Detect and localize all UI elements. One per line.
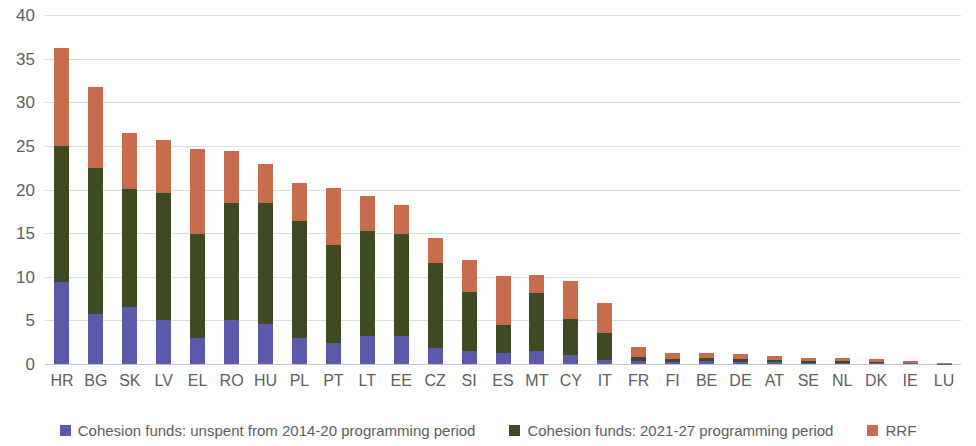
y-axis-tick-label: 25 bbox=[16, 137, 35, 154]
bar-segment-PT-s1 bbox=[326, 245, 341, 343]
x-axis-label-IE: IE bbox=[903, 372, 918, 390]
x-axis-label-SI: SI bbox=[462, 372, 477, 390]
bar-LT[interactable] bbox=[360, 196, 375, 364]
x-axis-label-NL: NL bbox=[832, 372, 852, 390]
y-axis: 0510152025303540 bbox=[0, 0, 45, 379]
legend-swatch-icon-1 bbox=[509, 425, 520, 436]
bar-segment-SI-s0 bbox=[462, 351, 477, 364]
x-axis-label-HR: HR bbox=[50, 372, 73, 390]
x-axis-label-BE: BE bbox=[696, 372, 717, 390]
bar-segment-SK-s1 bbox=[122, 189, 137, 308]
bar-segment-EL-s0 bbox=[190, 338, 205, 364]
bar-segment-IT-s0 bbox=[597, 360, 612, 364]
x-axis-label-EL: EL bbox=[188, 372, 208, 390]
bar-segment-ES-s2 bbox=[496, 276, 511, 325]
y-axis-tick-label: 0 bbox=[26, 356, 35, 373]
legend-item-0[interactable]: Cohesion funds: unspent from 2014-20 pro… bbox=[60, 422, 476, 439]
bar-segment-MT-s2 bbox=[529, 275, 544, 293]
bar-segment-ES-s0 bbox=[496, 353, 511, 364]
bar-SK[interactable] bbox=[122, 133, 137, 364]
bar-segment-EE-s1 bbox=[394, 234, 409, 336]
legend-item-1[interactable]: Cohesion funds: 2021-27 programming peri… bbox=[509, 422, 833, 439]
y-axis-tick-label: 40 bbox=[16, 7, 35, 24]
bar-segment-HR-s2 bbox=[54, 48, 69, 146]
x-axis-label-PT: PT bbox=[323, 372, 343, 390]
bar-segment-FR-s2 bbox=[631, 347, 646, 357]
bar-segment-DE-s0 bbox=[733, 362, 748, 364]
bar-segment-CY-s1 bbox=[563, 319, 578, 356]
bar-LV[interactable] bbox=[156, 140, 171, 364]
legend-swatch-icon-0 bbox=[60, 425, 71, 436]
bar-segment-EL-s2 bbox=[190, 149, 205, 235]
chart-legend: Cohesion funds: unspent from 2014-20 pro… bbox=[0, 414, 976, 446]
bars-layer bbox=[45, 15, 961, 364]
bar-segment-CZ-s2 bbox=[428, 238, 443, 263]
x-axis-label-RO: RO bbox=[220, 372, 244, 390]
legend-label-2: RRF bbox=[885, 422, 916, 439]
x-axis-label-LT: LT bbox=[359, 372, 376, 390]
bar-segment-PT-s0 bbox=[326, 343, 341, 364]
bar-segment-LV-s1 bbox=[156, 193, 171, 320]
bar-FR[interactable] bbox=[631, 347, 646, 364]
bar-segment-PL-s0 bbox=[292, 338, 307, 364]
legend-swatch-icon-2 bbox=[867, 425, 878, 436]
bar-segment-BG-s2 bbox=[88, 87, 103, 167]
bar-segment-ES-s1 bbox=[496, 325, 511, 353]
bar-segment-PT-s2 bbox=[326, 188, 341, 246]
bar-PT[interactable] bbox=[326, 188, 341, 364]
bar-segment-SK-s2 bbox=[122, 133, 137, 189]
bar-IE[interactable] bbox=[903, 361, 918, 364]
bar-segment-LT-s0 bbox=[360, 336, 375, 364]
bar-CZ[interactable] bbox=[428, 238, 443, 365]
bar-segment-EE-s0 bbox=[394, 336, 409, 364]
bar-SI[interactable] bbox=[462, 260, 477, 364]
bar-DK[interactable] bbox=[869, 359, 884, 364]
bar-BG[interactable] bbox=[88, 87, 103, 364]
bar-segment-CY-s0 bbox=[563, 355, 578, 364]
bar-FI[interactable] bbox=[665, 353, 680, 364]
bar-segment-CZ-s1 bbox=[428, 263, 443, 349]
bar-segment-HR-s1 bbox=[54, 146, 69, 282]
bar-DE[interactable] bbox=[733, 354, 748, 364]
y-axis-tick-label: 10 bbox=[16, 268, 35, 285]
bar-SE[interactable] bbox=[801, 358, 816, 364]
bar-segment-LT-s2 bbox=[360, 196, 375, 232]
bar-segment-SE-s0 bbox=[801, 363, 816, 364]
bar-EE[interactable] bbox=[394, 205, 409, 364]
bar-segment-BG-s0 bbox=[88, 314, 103, 364]
bar-segment-SK-s0 bbox=[122, 307, 137, 364]
bar-segment-PL-s2 bbox=[292, 183, 307, 221]
bar-segment-IT-s1 bbox=[597, 333, 612, 359]
bar-NL[interactable] bbox=[835, 358, 850, 364]
bar-segment-FI-s0 bbox=[665, 362, 680, 364]
bar-EL[interactable] bbox=[190, 149, 205, 364]
bar-PL[interactable] bbox=[292, 183, 307, 364]
bar-RO[interactable] bbox=[224, 151, 239, 364]
bar-segment-HU-s1 bbox=[258, 203, 273, 323]
bar-HR[interactable] bbox=[54, 48, 69, 364]
x-axis-label-AT: AT bbox=[765, 372, 784, 390]
bar-AT[interactable] bbox=[767, 356, 782, 364]
bar-segment-LV-s2 bbox=[156, 140, 171, 193]
bar-segment-EE-s2 bbox=[394, 205, 409, 234]
bar-HU[interactable] bbox=[258, 164, 273, 364]
bar-LU[interactable] bbox=[937, 363, 952, 364]
chart-container: 0510152025303540 HRBGSKLVELROHUPLPTLTEEC… bbox=[0, 0, 976, 446]
bar-IT[interactable] bbox=[597, 303, 612, 364]
bar-segment-IE-s0 bbox=[903, 363, 918, 364]
x-axis-label-LV: LV bbox=[155, 372, 173, 390]
bar-MT[interactable] bbox=[529, 275, 544, 364]
x-axis-label-IT: IT bbox=[598, 372, 612, 390]
x-axis: HRBGSKLVELROHUPLPTLTEECZSIESMTCYITFRFIBE… bbox=[45, 366, 961, 396]
bar-segment-HR-s0 bbox=[54, 282, 69, 364]
bar-CY[interactable] bbox=[563, 281, 578, 364]
x-axis-label-CZ: CZ bbox=[424, 372, 445, 390]
bar-segment-HU-s0 bbox=[258, 324, 273, 364]
x-axis-label-FI: FI bbox=[666, 372, 680, 390]
bar-BE[interactable] bbox=[699, 353, 714, 364]
x-axis-label-MT: MT bbox=[525, 372, 548, 390]
plot-area bbox=[45, 15, 961, 364]
legend-item-2[interactable]: RRF bbox=[867, 422, 916, 439]
bar-ES[interactable] bbox=[496, 276, 511, 364]
x-axis-label-EE: EE bbox=[391, 372, 412, 390]
